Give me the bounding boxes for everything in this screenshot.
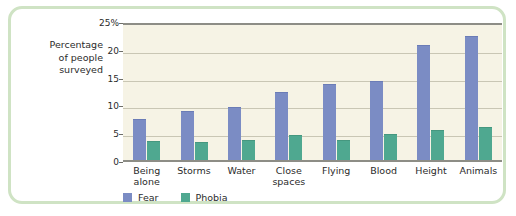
bar-fear-1 xyxy=(181,111,194,160)
gridline xyxy=(123,53,502,54)
plot-area xyxy=(123,23,502,162)
bar-fear-7 xyxy=(465,36,478,160)
legend-swatch-icon xyxy=(123,193,132,202)
x-tick-label: Storms xyxy=(170,165,217,176)
plot-inner xyxy=(123,25,502,160)
bar-fear-2 xyxy=(228,107,241,160)
gridline xyxy=(123,81,502,82)
y-tick-label: 15 xyxy=(83,74,119,84)
legend-item-phobia: Phobia xyxy=(181,192,228,203)
bar-phobia-7 xyxy=(479,127,492,160)
x-tick-label: Animals xyxy=(455,165,502,176)
legend-swatch-icon xyxy=(181,193,190,202)
y-tick-mark xyxy=(119,162,123,163)
legend-label: Phobia xyxy=(196,192,228,203)
y-tick-label: 0 xyxy=(83,157,119,167)
bar-phobia-3 xyxy=(289,135,302,160)
gridline xyxy=(123,108,502,109)
bar-phobia-1 xyxy=(195,142,208,160)
x-tick-label: Close spaces xyxy=(265,165,312,187)
bar-phobia-0 xyxy=(147,141,160,160)
bar-phobia-2 xyxy=(242,140,255,160)
x-tick-label: Height xyxy=(407,165,454,176)
y-axis-tick-labels: 0510152025% xyxy=(79,23,119,162)
bar-fear-0 xyxy=(133,119,146,160)
legend-label: Fear xyxy=(138,192,159,203)
x-tick-label: Blood xyxy=(360,165,407,176)
bar-phobia-5 xyxy=(384,134,397,160)
y-tick-label: 20 xyxy=(83,46,119,56)
bar-fear-5 xyxy=(370,81,383,160)
bar-fear-4 xyxy=(323,84,336,160)
chart-frame: Percentage of people surveyed 0510152025… xyxy=(8,6,506,204)
bar-fear-6 xyxy=(417,45,430,160)
bar-fear-3 xyxy=(275,92,288,160)
y-tick-label: 10 xyxy=(83,101,119,111)
y-tick-label: 25% xyxy=(83,18,119,28)
bar-phobia-6 xyxy=(431,130,444,160)
x-tick-label: Being alone xyxy=(123,165,170,187)
legend-item-fear: Fear xyxy=(123,192,159,203)
chart-legend: FearPhobia xyxy=(123,192,228,203)
x-tick-label: Flying xyxy=(313,165,360,176)
x-tick-label: Water xyxy=(218,165,265,176)
y-tick-label: 5 xyxy=(83,129,119,139)
bar-phobia-4 xyxy=(337,140,350,160)
